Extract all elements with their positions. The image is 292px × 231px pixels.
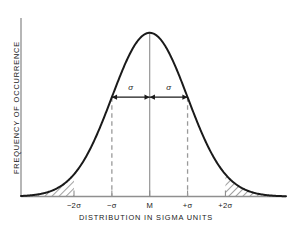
x-tick-label-plus-sigma: +σ bbox=[170, 201, 206, 210]
arrowhead bbox=[150, 95, 155, 100]
y-axis-title: FREQUENCY OF OCCURRENCE bbox=[12, 18, 21, 198]
arrowhead bbox=[145, 95, 150, 100]
sigma-label-right: σ bbox=[159, 83, 179, 92]
vertical-reference-lines bbox=[112, 33, 188, 197]
x-tick-label-plus-2-sigma: +2σ bbox=[207, 201, 243, 210]
x-tick-label-mean: M bbox=[132, 201, 168, 210]
x-tick-label-minus-sigma: −σ bbox=[94, 201, 130, 210]
x-tick-label-minus-2-sigma: −2σ bbox=[56, 201, 92, 210]
normal-curve bbox=[21, 33, 286, 196]
x-axis-title: DISTRIBUTION IN SIGMA UNITS bbox=[0, 213, 292, 222]
plot-canvas bbox=[0, 0, 292, 231]
sigma-label-left: σ bbox=[121, 83, 141, 92]
normal-distribution-figure: DISTRIBUTION IN SIGMA UNITS FREQUENCY OF… bbox=[0, 0, 292, 231]
